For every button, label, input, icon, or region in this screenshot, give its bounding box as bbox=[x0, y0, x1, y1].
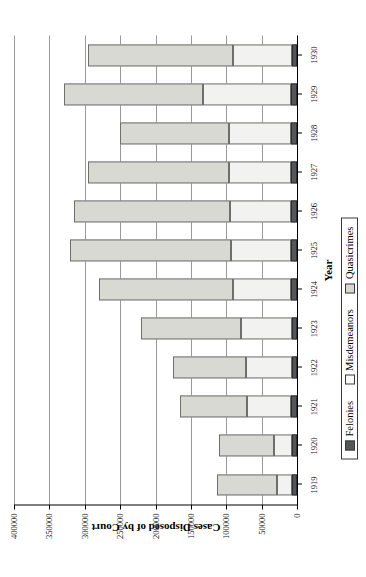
x-axis-tick bbox=[297, 444, 302, 445]
legend-item-misdemeanors[interactable]: Misdemeanors bbox=[344, 309, 355, 385]
gridline bbox=[85, 35, 86, 504]
bar-segment-quasicrimes[interactable] bbox=[88, 44, 233, 66]
bar-1919[interactable] bbox=[217, 474, 297, 496]
bar-1929[interactable] bbox=[64, 83, 297, 105]
y-axis-tick bbox=[49, 504, 50, 509]
x-axis-tick-label: 1924 bbox=[309, 281, 319, 298]
plot-area: 0500001000001500002000002500003000003500… bbox=[14, 35, 298, 505]
bar-segment-misdemeanors[interactable] bbox=[229, 122, 291, 144]
bar-1921[interactable] bbox=[180, 395, 297, 417]
x-axis-tick bbox=[297, 366, 302, 367]
y-axis-tick bbox=[120, 504, 121, 509]
bar-1925[interactable] bbox=[70, 239, 297, 261]
y-axis-tick-label: 0 bbox=[292, 513, 302, 517]
bar-1924[interactable] bbox=[99, 278, 297, 300]
bar-segment-felonies[interactable] bbox=[292, 474, 297, 496]
y-axis-tick-label: 150000 bbox=[186, 513, 196, 539]
x-axis-tick-label: 1930 bbox=[309, 46, 319, 63]
gridline bbox=[156, 35, 157, 504]
bar-segment-misdemeanors[interactable] bbox=[277, 474, 293, 496]
bar-segment-quasicrimes[interactable] bbox=[173, 356, 246, 378]
bar-segment-felonies[interactable] bbox=[292, 44, 297, 66]
legend-item-felonies[interactable]: Felonies bbox=[344, 400, 355, 450]
gridline bbox=[49, 35, 50, 504]
y-axis-tick bbox=[85, 504, 86, 509]
x-axis-tick-label: 1920 bbox=[309, 437, 319, 454]
bar-1926[interactable] bbox=[74, 200, 297, 222]
x-axis-tick bbox=[297, 483, 302, 484]
bar-segment-misdemeanors[interactable] bbox=[233, 278, 291, 300]
bar-segment-misdemeanors[interactable] bbox=[241, 317, 292, 339]
y-axis-tick bbox=[156, 504, 157, 509]
legend-label: Felonies bbox=[344, 400, 355, 436]
x-axis-tick bbox=[297, 288, 302, 289]
x-axis-tick bbox=[297, 327, 302, 328]
legend-swatch-quasicrimes-icon bbox=[345, 283, 355, 293]
bar-segment-quasicrimes[interactable] bbox=[180, 395, 247, 417]
bar-segment-misdemeanors[interactable] bbox=[229, 161, 291, 183]
bar-segment-misdemeanors[interactable] bbox=[203, 83, 291, 105]
gridline bbox=[262, 35, 263, 504]
bar-segment-quasicrimes[interactable] bbox=[64, 83, 203, 105]
bar-segment-misdemeanors[interactable] bbox=[274, 434, 292, 456]
bar-segment-felonies[interactable] bbox=[291, 122, 297, 144]
bar-segment-misdemeanors[interactable] bbox=[230, 200, 291, 222]
gridline bbox=[226, 35, 227, 504]
bar-segment-felonies[interactable] bbox=[291, 395, 297, 417]
x-axis-tick bbox=[297, 210, 302, 211]
bar-segment-felonies[interactable] bbox=[292, 317, 297, 339]
legend-label: Misdemeanors bbox=[344, 309, 355, 371]
bar-1927[interactable] bbox=[88, 161, 297, 183]
x-axis-tick-label: 1919 bbox=[309, 476, 319, 493]
bar-segment-quasicrimes[interactable] bbox=[88, 161, 230, 183]
x-axis-tick-label: 1927 bbox=[309, 163, 319, 180]
x-axis-tick-label: 1928 bbox=[309, 124, 319, 141]
bar-1920[interactable] bbox=[219, 434, 297, 456]
bar-segment-quasicrimes[interactable] bbox=[141, 317, 241, 339]
bar-segment-quasicrimes[interactable] bbox=[99, 278, 233, 300]
legend-label: Quasicrimes bbox=[344, 226, 355, 279]
chart-legend: FeloniesMisdemeanorsQuasicrimes bbox=[341, 217, 358, 459]
y-axis-tick bbox=[262, 504, 263, 509]
x-axis-tick-label: 1926 bbox=[309, 202, 319, 219]
bar-1928[interactable] bbox=[120, 122, 297, 144]
bar-1923[interactable] bbox=[141, 317, 297, 339]
legend-item-quasicrimes[interactable]: Quasicrimes bbox=[344, 226, 355, 293]
x-axis-tick bbox=[297, 93, 302, 94]
bar-segment-felonies[interactable] bbox=[291, 83, 297, 105]
bar-segment-misdemeanors[interactable] bbox=[246, 356, 292, 378]
bar-segment-quasicrimes[interactable] bbox=[120, 122, 230, 144]
bar-segment-felonies[interactable] bbox=[291, 278, 297, 300]
x-axis-tick bbox=[297, 249, 302, 250]
bar-segment-felonies[interactable] bbox=[292, 434, 297, 456]
bar-segment-felonies[interactable] bbox=[291, 200, 297, 222]
x-axis-tick-label: 1923 bbox=[309, 320, 319, 337]
y-axis-tick-label: 100000 bbox=[221, 513, 231, 539]
bar-segment-quasicrimes[interactable] bbox=[70, 239, 231, 261]
bar-segment-quasicrimes[interactable] bbox=[219, 434, 274, 456]
y-axis-tick-label: 50000 bbox=[257, 513, 267, 534]
y-axis-tick-label: 300000 bbox=[80, 513, 90, 539]
bar-segment-felonies[interactable] bbox=[292, 356, 297, 378]
bar-segment-felonies[interactable] bbox=[291, 239, 297, 261]
bar-segment-quasicrimes[interactable] bbox=[217, 474, 276, 496]
x-axis-title: Year bbox=[322, 35, 334, 505]
x-axis-tick-label: 1929 bbox=[309, 85, 319, 102]
bar-1930[interactable] bbox=[88, 44, 297, 66]
x-axis-tick-label: 1922 bbox=[309, 359, 319, 376]
y-axis-tick bbox=[191, 504, 192, 509]
x-axis-tick-label: 1921 bbox=[309, 398, 319, 415]
gridline bbox=[191, 35, 192, 504]
bar-segment-misdemeanors[interactable] bbox=[247, 395, 291, 417]
bar-segment-misdemeanors[interactable] bbox=[233, 44, 292, 66]
bar-segment-felonies[interactable] bbox=[291, 161, 297, 183]
legend-swatch-misdemeanors-icon bbox=[345, 374, 355, 384]
x-axis-tick bbox=[297, 171, 302, 172]
rotated-chart-figure: Cases Disposed of by Court 0500001000001… bbox=[0, 0, 366, 577]
bar-segment-quasicrimes[interactable] bbox=[74, 200, 230, 222]
y-axis-tick-label: 250000 bbox=[115, 513, 125, 539]
gridline bbox=[120, 35, 121, 504]
bar-segment-misdemeanors[interactable] bbox=[231, 239, 290, 261]
y-axis-tick-label: 350000 bbox=[44, 513, 54, 539]
bar-1922[interactable] bbox=[173, 356, 297, 378]
